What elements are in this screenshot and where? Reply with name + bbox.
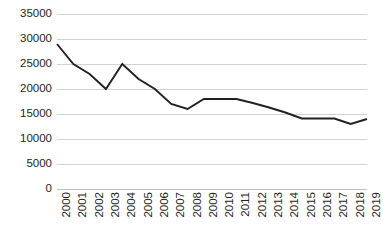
y-axis-tick-label: 20000 (20, 83, 52, 95)
x-axis-tick-label: 2018 (355, 192, 367, 218)
x-axis: 2000200120022003200420052006200720082009… (57, 192, 367, 240)
y-axis-tick-label: 5000 (26, 158, 52, 170)
x-axis-tick-label: 2017 (338, 192, 350, 218)
plot-area (57, 14, 367, 189)
x-axis-tick-label: 2014 (289, 192, 301, 218)
y-axis-tick-label: 30000 (20, 33, 52, 45)
gridline (57, 189, 367, 190)
x-axis-tick-label: 2019 (371, 192, 383, 218)
series-polyline (57, 44, 367, 124)
x-axis-tick-label: 2004 (126, 192, 138, 218)
data-series-line (57, 14, 367, 189)
x-axis-tick-label: 2015 (306, 192, 318, 218)
x-axis-tick-label: 2013 (273, 192, 285, 218)
x-axis-tick-label: 2001 (77, 192, 89, 218)
x-axis-tick-label: 2000 (61, 192, 73, 218)
x-axis-tick-label: 2012 (257, 192, 269, 218)
x-axis-tick-label: 2011 (240, 192, 252, 217)
x-axis-tick-label: 2005 (143, 192, 155, 218)
y-axis-tick-label: 25000 (20, 58, 52, 70)
x-axis-tick-label: 2003 (110, 192, 122, 218)
y-axis-tick-label: 0 (46, 183, 52, 195)
y-axis-tick-label: 35000 (20, 8, 52, 20)
x-axis-tick-label: 2007 (175, 192, 187, 218)
x-axis-tick-label: 2008 (192, 192, 204, 218)
x-axis-tick-label: 2002 (94, 192, 106, 218)
x-axis-tick-label: 2006 (159, 192, 171, 218)
x-axis-tick-label: 2009 (208, 192, 220, 218)
y-axis-tick-label: 15000 (20, 108, 52, 120)
x-axis-tick-label: 2016 (322, 192, 334, 218)
x-axis-tick-label: 2010 (224, 192, 236, 218)
y-axis: 05000100001500020000250003000035000 (0, 0, 52, 240)
y-axis-tick-label: 10000 (20, 133, 52, 145)
